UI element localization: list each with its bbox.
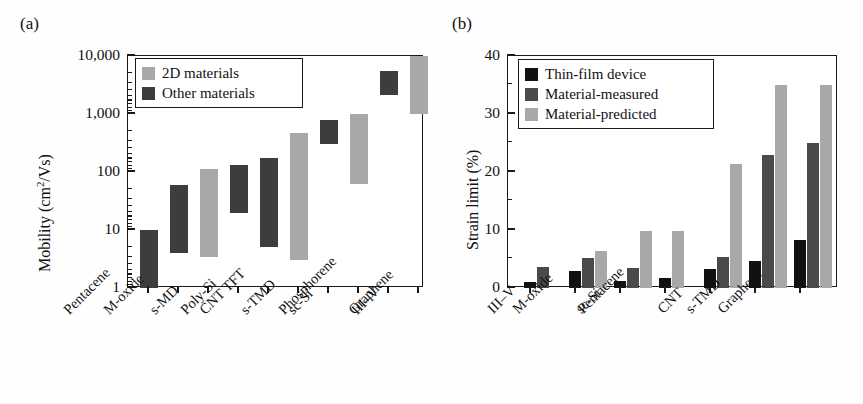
legend-swatch-material-measured xyxy=(525,88,538,101)
bar-graphene-measured xyxy=(807,143,819,288)
panel-b-ytickmark-30 xyxy=(507,112,515,114)
panel-a-ytick-1000: 1,000 xyxy=(44,104,120,122)
panel-a-yminortick xyxy=(127,110,132,111)
panel-a-yminortick xyxy=(127,165,132,166)
legend-swatch-thin-film-device xyxy=(525,68,538,81)
panel-a-yminortick xyxy=(127,168,132,169)
legend-item-other-materials: Other materials xyxy=(142,83,294,103)
bar-graphene-2d xyxy=(410,56,428,114)
bar-sc-si-other xyxy=(320,120,338,144)
legend-label-other-materials: Other materials xyxy=(162,86,255,101)
legend-label-thin-film-device: Thin-film device xyxy=(545,67,646,82)
bar-pentacene-predicted xyxy=(672,231,684,288)
panel-b-xtick xyxy=(799,286,801,293)
panel-a-tag: (a) xyxy=(20,14,39,34)
panel-a-xtick xyxy=(417,286,419,293)
panel-a-yminortick xyxy=(127,103,132,104)
panel-a-ytickmark-100 xyxy=(127,170,135,172)
panel-a-legend: 2D materials Other materials xyxy=(135,58,303,108)
panel-b-ytickmark-10 xyxy=(507,228,515,230)
panel-a-ytick-10000: 10,000 xyxy=(44,46,120,64)
panel-a-yminortick xyxy=(127,211,132,212)
bar-m-oxide-other xyxy=(170,185,188,253)
legend-item-thin-film-device: Thin-film device xyxy=(525,64,705,84)
panel-a-mobility: (a) Mobility (cm2/Vs) 10,000 1,000 100 1… xyxy=(0,0,432,404)
panel-a-yminortick xyxy=(127,140,132,141)
bar-s-md-2d xyxy=(200,169,218,256)
panel-a-yminortick xyxy=(127,72,132,73)
panel-b-strain-limit: (b) Strain limit (%) 40 30 20 10 0 Thin-… xyxy=(432,0,863,404)
legend-swatch-material-predicted xyxy=(525,108,538,121)
panel-b-ytick-40: 40 xyxy=(462,46,500,64)
panel-a-xtick xyxy=(327,286,329,293)
legend-swatch-other-materials xyxy=(142,87,155,100)
bar-cnt-tft-other xyxy=(260,158,278,248)
bar-poly-si-other xyxy=(230,165,248,212)
panel-b-xtick xyxy=(574,286,576,293)
panel-a-plot-area: 2D materials Other materials xyxy=(127,55,423,287)
panel-a-yminortick xyxy=(127,223,132,224)
panel-b-tag: (b) xyxy=(452,14,472,34)
panel-a-yminortick xyxy=(127,269,132,270)
panel-b-yminortick xyxy=(507,141,512,142)
bar-graphene-thin-film xyxy=(794,240,806,288)
panel-a-yminortick xyxy=(127,157,132,158)
bar-s-tmd-2d xyxy=(290,133,308,261)
panel-a-xtick xyxy=(147,286,149,293)
panel-a-yminortick xyxy=(127,219,132,220)
panel-a-ytick-10: 10 xyxy=(44,220,120,238)
panel-b-ytick-30: 30 xyxy=(462,104,500,122)
figure-root: (a) Mobility (cm2/Vs) 10,000 1,000 100 1… xyxy=(0,0,863,404)
panel-a-ytickmark-10000 xyxy=(127,54,135,56)
panel-b-yminortick xyxy=(507,83,512,84)
panel-b-xlabel-cnt: CNT xyxy=(654,284,687,317)
bar-cnt-predicted xyxy=(730,164,742,288)
legend-item-2d-materials: 2D materials xyxy=(142,63,294,83)
panel-b-ytickmark-40 xyxy=(507,54,515,56)
panel-a-yminortick xyxy=(127,256,132,257)
panel-b-ytick-10: 10 xyxy=(462,220,500,238)
panel-a-yminortick xyxy=(127,107,132,108)
panel-a-yminortick xyxy=(127,246,132,247)
bar-graphene-predicted xyxy=(820,85,832,288)
panel-a-yminortick xyxy=(127,161,132,162)
panel-b-legend: Thin-film device Material-measured Mater… xyxy=(518,59,714,129)
panel-a-yminortick xyxy=(127,147,132,148)
panel-a-ytickmark-1000 xyxy=(127,112,135,114)
panel-b-plot-area: Thin-film device Material-measured Mater… xyxy=(507,55,837,287)
bar-sc-si-predicted xyxy=(640,231,652,288)
panel-b-xtick xyxy=(619,286,621,293)
panel-a-yminortick xyxy=(127,153,132,154)
panel-a-yminortick xyxy=(127,99,132,100)
panel-a-ytick-100: 100 xyxy=(44,162,120,180)
panel-a-yminortick xyxy=(127,215,132,216)
panel-a-yminortick xyxy=(127,95,132,96)
panel-b-ytickmark-20 xyxy=(507,170,515,172)
panel-a-yminortick xyxy=(127,205,132,206)
bar-phosphorene-2d xyxy=(350,114,368,184)
panel-a-yminortick xyxy=(127,263,132,264)
legend-item-material-predicted: Material-predicted xyxy=(525,104,705,124)
panel-a-yminortick xyxy=(127,130,132,131)
panel-b-ytick-20: 20 xyxy=(462,162,500,180)
legend-label-material-measured: Material-measured xyxy=(545,87,658,102)
panel-a-yminortick xyxy=(127,226,132,227)
bar-iii-v-other xyxy=(380,71,398,95)
bar-sc-si-measured xyxy=(627,268,639,288)
legend-swatch-2d-materials xyxy=(142,67,155,80)
bar-s-tmd-measured xyxy=(762,155,774,288)
panel-a-yminortick xyxy=(127,89,132,90)
panel-b-yminortick xyxy=(507,199,512,200)
panel-a-yminortick xyxy=(127,198,132,199)
legend-label-material-predicted: Material-predicted xyxy=(545,107,657,122)
panel-a-ytickmark-10 xyxy=(127,228,135,230)
bar-s-tmd-predicted xyxy=(775,85,787,288)
panel-a-yminortick xyxy=(127,82,132,83)
panel-a-yminortick xyxy=(127,188,132,189)
legend-label-2d-materials: 2D materials xyxy=(162,66,239,81)
panel-b-yminortick xyxy=(507,257,512,258)
legend-item-material-measured: Material-measured xyxy=(525,84,705,104)
